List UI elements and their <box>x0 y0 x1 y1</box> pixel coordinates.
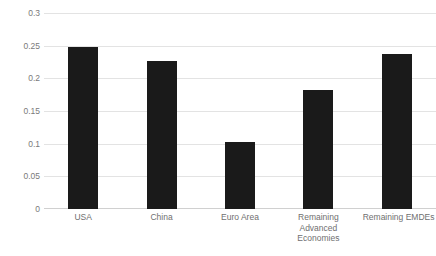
x-tick-label-china: China <box>122 212 200 223</box>
y-tick-label: 0.1 <box>4 139 40 148</box>
bar-slot <box>358 13 436 209</box>
bar-chart: 0 0.05 0.1 0.15 0.2 0.25 0.3 US <box>0 0 436 256</box>
x-tick-label-remaining-emdes: Remaining EMDEs <box>358 212 436 223</box>
bar-remaining-advanced-economies <box>303 90 333 209</box>
bar-remaining-emdes <box>382 54 412 209</box>
y-axis: 0 0.05 0.1 0.15 0.2 0.25 0.3 <box>0 13 40 209</box>
y-tick-label: 0.3 <box>4 9 40 18</box>
bar-usa <box>68 47 98 209</box>
y-tick-label: 0 <box>4 205 40 214</box>
y-tick-label: 0.25 <box>4 41 40 50</box>
y-tick-label: 0.2 <box>4 74 40 83</box>
plot-area <box>44 13 436 209</box>
bar-slot <box>122 13 200 209</box>
x-tick-label-euro-area: Euro Area <box>201 212 279 223</box>
x-tick-label-usa: USA <box>44 212 122 223</box>
bar-slot <box>279 13 357 209</box>
x-axis: USA China Euro Area Remaining Advanced E… <box>44 212 436 256</box>
bar-euro-area <box>225 142 255 209</box>
x-tick-label-remaining-advanced-economies: Remaining Advanced Economies <box>279 212 357 244</box>
y-tick-label: 0.05 <box>4 172 40 181</box>
bar-slot <box>201 13 279 209</box>
bar-slot <box>44 13 122 209</box>
y-tick-label: 0.15 <box>4 107 40 116</box>
bar-china <box>147 61 177 209</box>
